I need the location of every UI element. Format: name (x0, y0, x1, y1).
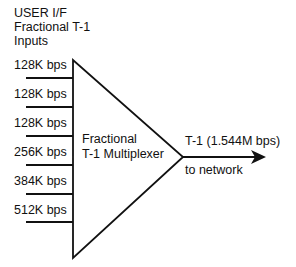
input-label-6: 512K bps (14, 203, 67, 217)
input-label-1: 128K bps (14, 58, 67, 72)
multiplexer-label-line-1: Fractional (82, 132, 137, 146)
multiplexer-label-line-2: T-1 Multiplexer (82, 147, 164, 161)
header-line-1: USER I/F (14, 6, 67, 20)
input-label-5: 384K bps (14, 174, 67, 188)
input-label-4: 256K bps (14, 145, 67, 159)
output-destination: to network (185, 163, 243, 177)
input-label-2: 128K bps (14, 87, 67, 101)
header-line-2: Fractional T-1 (14, 20, 90, 34)
output-label: T-1 (1.544M bps) (185, 134, 280, 148)
header-line-3: Inputs (14, 34, 48, 48)
input-label-3: 128K bps (14, 116, 67, 130)
